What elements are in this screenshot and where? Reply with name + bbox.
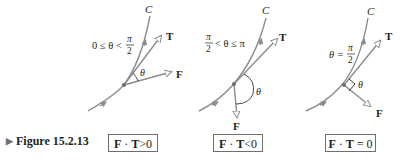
- svg-text:π: π: [206, 32, 211, 42]
- caption-text: Figure 15.2.13: [16, 134, 89, 148]
- result-box-negative: F · T<0: [213, 134, 263, 152]
- caption-marker-icon: ▶: [6, 136, 13, 146]
- point-p: [342, 83, 346, 87]
- relation: =: [357, 137, 364, 151]
- curve-label-c: C: [145, 3, 153, 15]
- tangent-label-t: T: [385, 30, 393, 42]
- curve-label-c: C: [262, 4, 270, 16]
- dot-operator: ·: [339, 137, 343, 151]
- symbol-f: F: [114, 137, 121, 151]
- svg-text:< θ ≤ π: < θ ≤ π: [215, 38, 246, 49]
- curve-direction-arrow: [260, 39, 262, 45]
- point-p: [122, 83, 126, 87]
- panel-obtuse: C T F θ π 2 < θ ≤ π: [199, 4, 287, 132]
- result-box-positive: F · T>0: [108, 134, 158, 152]
- svg-text:2: 2: [348, 55, 353, 65]
- force-label-f: F: [376, 107, 383, 119]
- force-vector-f: [344, 85, 370, 106]
- svg-text:π: π: [127, 34, 132, 44]
- svg-text:θ =: θ =: [329, 49, 344, 60]
- svg-text:π: π: [348, 43, 353, 53]
- point-p: [232, 82, 236, 86]
- svg-text:0 ≤ θ <: 0 ≤ θ <: [92, 40, 122, 51]
- angle-label-theta: θ: [358, 79, 363, 90]
- angle-label-theta: θ: [256, 86, 261, 97]
- svg-text:2: 2: [127, 46, 132, 56]
- tangent-label-t: T: [279, 31, 287, 43]
- force-label-f: F: [233, 120, 240, 132]
- symbol-f: F: [328, 137, 335, 151]
- angle-label-theta: θ: [140, 67, 145, 78]
- force-vector-f: [234, 84, 237, 117]
- panel-right-angle: C T F θ θ = π 2: [306, 5, 393, 119]
- dot-operator: ·: [124, 137, 128, 151]
- symbol-f: F: [219, 137, 226, 151]
- condition-label: π 2 < θ ≤ π: [205, 32, 246, 54]
- force-label-f: F: [176, 68, 183, 80]
- rhs-value: 0: [251, 137, 257, 151]
- svg-text:2: 2: [206, 44, 211, 54]
- condition-label: 0 ≤ θ < π 2: [92, 34, 134, 56]
- angle-arc: [133, 73, 138, 81]
- rhs-value: 0: [146, 137, 152, 151]
- condition-label: θ = π 2: [329, 43, 355, 65]
- curve-label-c: C: [367, 5, 375, 17]
- tangent-label-t: T: [166, 30, 174, 42]
- rhs-value: 0: [367, 137, 373, 151]
- dot-operator: ·: [229, 137, 233, 151]
- figure-caption: ▶Figure 15.2.13: [6, 134, 89, 149]
- panel-acute: C T F θ 0 ≤ θ < π 2: [88, 3, 183, 111]
- result-box-zero: F · T = 0: [325, 134, 376, 152]
- symbol-t: T: [346, 137, 354, 151]
